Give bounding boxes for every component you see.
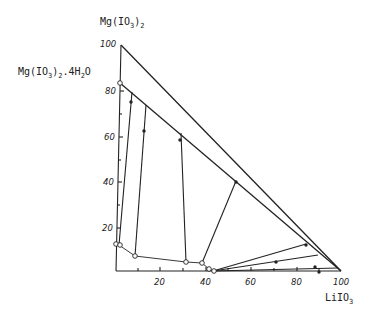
x-tick-label: 100 [333,277,349,287]
x-tick-label: 80 [291,277,302,287]
tie-line [181,133,186,262]
tie-line [202,181,236,263]
y-tick-label: 80 [105,86,116,96]
x-tick-label: 60 [245,277,256,287]
tie-line [119,92,132,245]
mg-li-edge [121,45,341,271]
y-tick-label: 100 [100,39,116,49]
top-vertex-label: Mg(IO3)2 [100,16,145,30]
phase-diagram: Mg(IO3)2 Mg(IO3)2.4H2O LiIO3 100 80 60 4… [0,0,376,325]
hydrate-li-line [120,83,341,271]
right-vertex-label: LiIO3 [325,292,353,306]
hydrate-label: Mg(IO3)2.4H2O [18,66,91,80]
y-tick-label: 60 [104,132,115,142]
x-tick-label: 40 [200,277,211,287]
y-tick-label: 20 [102,223,113,233]
y-axis [116,45,121,271]
tie-line [135,105,146,256]
x-tick-label: 20 [154,277,165,287]
diagram-svg [0,0,376,325]
solubility-curve [116,244,213,271]
tie-line [213,244,306,271]
y-tick-label: 40 [103,177,114,187]
